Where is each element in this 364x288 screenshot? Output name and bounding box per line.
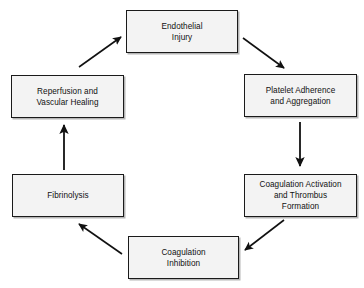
node-reperfusion[interactable]: Reperfusion and Vascular Healing xyxy=(11,75,124,118)
flowchart-diagram: Endothelial Injury Platelet Adherence an… xyxy=(0,0,364,288)
node-coagulation-inhibition[interactable]: Coagulation Inhibition xyxy=(128,236,239,279)
node-endothelial-injury[interactable]: Endothelial Injury xyxy=(126,10,238,53)
node-label: Platelet Adherence and Aggregation xyxy=(263,85,339,107)
node-label: Coagulation Inhibition xyxy=(158,247,208,269)
node-coagulation-activation[interactable]: Coagulation Activation and Thrombus Form… xyxy=(244,174,357,217)
node-label: Reperfusion and Vascular Healing xyxy=(33,86,101,108)
edge-injury-to-platelet xyxy=(243,38,284,68)
node-platelet-adherence[interactable]: Platelet Adherence and Aggregation xyxy=(244,74,357,117)
edge-inhibition-to-fibrinolysis xyxy=(79,224,122,254)
node-fibrinolysis[interactable]: Fibrinolysis xyxy=(12,174,124,217)
node-label: Fibrinolysis xyxy=(44,190,92,201)
edge-reperfusion-to-injury xyxy=(79,37,121,67)
node-label: Coagulation Activation and Thrombus Form… xyxy=(256,179,344,212)
edge-coagulation-to-inhibition xyxy=(245,220,284,250)
node-label: Endothelial Injury xyxy=(158,21,205,43)
